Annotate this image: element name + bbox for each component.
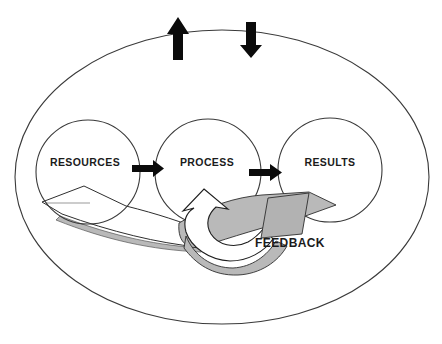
process-to-results-arrow-icon: [249, 164, 282, 181]
resources-label: RESOURCES: [50, 156, 120, 168]
feedback-ribbon-fold: [261, 193, 309, 238]
system-boundary-ellipse: [15, 30, 429, 324]
down-arrow-icon: [240, 22, 262, 58]
up-arrow-icon: [167, 17, 189, 60]
process-label: PROCESS: [180, 156, 234, 168]
results-label: RESULTS: [304, 156, 355, 168]
feedback-label: FEEDBACK: [255, 236, 325, 250]
resources-to-process-arrow-icon: [132, 160, 164, 177]
diagram-canvas: RESOURCES PROCESS RESULTS FEEDBACK: [0, 0, 442, 344]
system-model-diagram: RESOURCES PROCESS RESULTS FEEDBACK: [0, 0, 442, 344]
